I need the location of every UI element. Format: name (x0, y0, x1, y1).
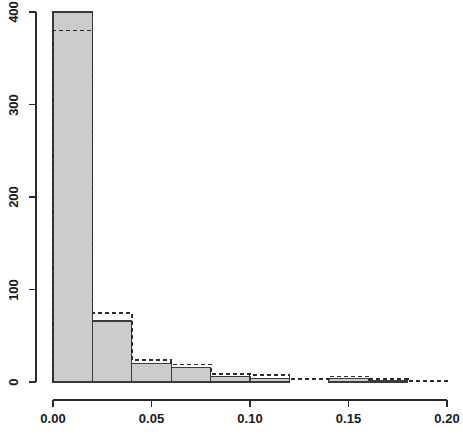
y-tick-label-3: 300 (5, 91, 23, 119)
histogram-bar-solid-4 (211, 376, 250, 382)
y-tick-label-0: 0 (5, 368, 23, 396)
y-tick-label-2: 200 (5, 183, 23, 211)
histogram-bar-solid-5 (250, 378, 289, 382)
x-tick-label-4: 0.20 (417, 411, 463, 426)
y-tick-label-1: 100 (5, 276, 23, 304)
x-tick-label-2: 0.10 (220, 411, 280, 426)
histogram-bar-solid-8 (368, 381, 407, 382)
histogram-bar-solid-0 (53, 12, 92, 382)
histogram-bar-solid-2 (132, 364, 171, 383)
y-tick-label-4: 400 (5, 0, 23, 26)
histogram-plot-area (0, 0, 463, 436)
x-tick-label-1: 0.05 (122, 411, 182, 426)
x-tick-label-0: 0.00 (23, 411, 83, 426)
histogram-bar-solid-1 (92, 321, 131, 382)
histogram-bar-solid-3 (171, 367, 210, 382)
histogram-bar-solid-7 (329, 378, 368, 382)
histogram-chart: 0 100 200 300 400 0.00 0.05 0.10 0.15 0.… (0, 0, 463, 436)
x-tick-label-3: 0.15 (319, 411, 379, 426)
